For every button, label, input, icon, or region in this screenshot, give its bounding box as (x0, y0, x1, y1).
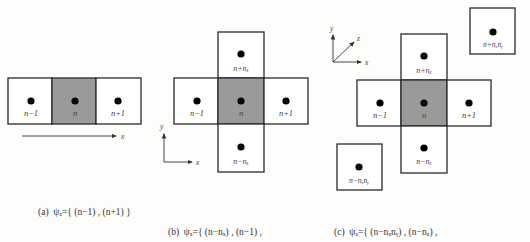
caption-b-line-1: (b) ψₓ={ (n−nₓ) , (n−1) , (168, 225, 262, 239)
panel-a: n−1 n n+1 x (8, 78, 141, 141)
cell-label: n+1 (279, 108, 293, 118)
caption-b: (b) ψₓ={ (n−nₓ) , (n−1) , (n+1) , (n+nₓ) (168, 197, 262, 242)
cell-label: n−1 (24, 108, 38, 118)
y-axis-label: y (159, 122, 164, 131)
cell-label: n (422, 110, 426, 120)
x-axis-label: x (120, 132, 125, 141)
cell-label: n−nₓ (416, 157, 432, 166)
cell-label: n+nₓnᵧ (483, 40, 503, 49)
cell-label: n+nₓ (416, 66, 432, 75)
x-axis-label: x (195, 158, 200, 167)
cell-label: n+nₓ (233, 64, 249, 73)
cell-label: n+1 (462, 110, 476, 120)
x-axis-label: x (364, 58, 369, 67)
caption-c: (c) ψₓ={ (n−nₓnᵧ) , (n−nₓ) , (n−1) , (n+… (334, 197, 437, 242)
caption-c-line-1: (c) ψₓ={ (n−nₓnᵧ) , (n−nₓ) , (334, 225, 437, 239)
cell-label: n−nₓnᵧ (349, 176, 369, 185)
cell-label: n (73, 108, 77, 118)
panel-c: n+nₓnᵧ n+nₓ n−1 n n+1 n−nₓ n−nₓnᵧ y x z (329, 8, 515, 190)
cell-label: n+1 (111, 108, 125, 118)
panel-b: n+nₓ n−1 n n+1 n−nₓ y x (159, 32, 308, 172)
y-axis-label: y (329, 24, 334, 33)
cell-label: n (239, 108, 243, 118)
cell-label: n−1 (373, 110, 387, 120)
cell-label: n−nₓ (233, 157, 249, 166)
caption-a: (a) ψₓ={ (n−1) , (n+1) } (38, 205, 131, 219)
z-axis-label: z (356, 34, 360, 43)
cell-label: n−1 (190, 108, 204, 118)
